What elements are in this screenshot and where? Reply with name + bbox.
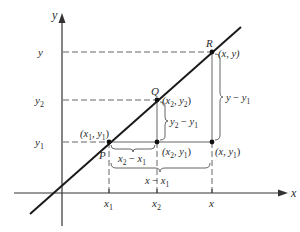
coord-p: (x1, y1) [80,128,110,142]
y-tick-label-y: y [37,46,43,58]
point-q [155,98,160,103]
y-tick-label-y2: y2 [34,94,44,109]
point-r [210,50,215,55]
coordinate-labels: (x1, y1) (x2, y2) (x, y) (x2, y1) (x, y1… [80,48,241,160]
label-p: P [98,149,106,161]
brace-x2-minus-x1 [111,145,155,152]
axes: x y [14,8,297,226]
x-tick-label-x: x [208,197,214,209]
y-tick-labels: y y2 y1 [34,46,44,151]
y-axis-arrow-icon [59,13,66,23]
label-q: Q [151,85,159,97]
label-y-minus-y1: y − y1 [225,92,251,106]
y-axis-label: y [51,8,58,22]
point-corner-r [210,140,215,145]
brace-y-minus-y1 [215,54,223,140]
label-r: R [205,37,213,49]
point-corner-q [155,140,160,145]
point-p [107,140,112,145]
x-tick-labels: x1 x2 x [103,197,214,212]
x-tick-label-x2: x2 [151,197,161,212]
x-axis-arrow-icon [278,190,288,197]
coord-q: (x2, y2) [162,95,192,109]
coord-corner-r: (x, y1) [215,146,241,160]
slope-diagram: x y [0,0,300,232]
x-axis-label: x [290,186,297,200]
coord-r: (x, y) [218,48,240,60]
x-tick-label-x1: x1 [103,197,113,212]
label-y2-minus-y1: y2 − y1 [169,116,198,130]
label-x-minus-x1: x − x1 [144,175,170,189]
y-tick-label-y1: y1 [34,136,44,151]
brace-y2-minus-y1 [160,102,168,140]
coord-corner-q: (x2, y1) [162,146,192,160]
label-x2-minus-x1: x2 − x1 [117,153,146,167]
